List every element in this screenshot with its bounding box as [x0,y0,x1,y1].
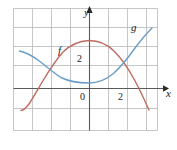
origin-label: 0 [80,92,85,102]
y-axis-label: y [84,7,89,18]
y-axis-tick-label-2: 2 [77,54,82,64]
curve-g-label: g [131,22,137,33]
graph-figure: y x 0 2 2 f g [0,0,177,150]
x-axis-tick-label-2: 2 [118,92,123,102]
axis-lines [14,8,164,131]
x-axis-label: x [166,88,171,99]
curve-f-label: f [58,45,61,56]
plot-canvas [0,0,177,150]
curve-f [21,41,149,111]
